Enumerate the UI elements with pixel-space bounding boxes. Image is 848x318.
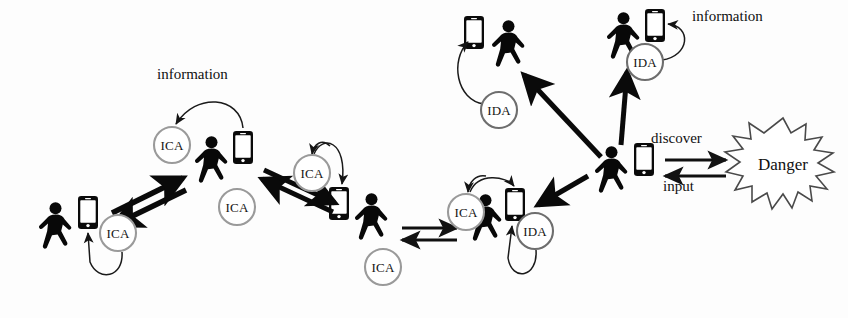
person-5 [464, 16, 524, 67]
agent-ida-2[interactable]: IDA [481, 92, 517, 128]
label-discover: discover [651, 130, 702, 147]
phone-person-2 [233, 131, 253, 164]
link-hub-person6 [621, 72, 627, 145]
link-hub-danger [665, 160, 726, 176]
agent-ida-3[interactable]: IDA [627, 44, 663, 80]
agent-label: ICA [301, 166, 324, 181]
phone-person-1 [78, 196, 98, 229]
phone-person-hub [634, 143, 654, 176]
agent-label: IDA [487, 103, 511, 118]
agent-label: ICA [107, 226, 130, 241]
agent-label: IDA [633, 55, 657, 70]
phone-person-6 [645, 9, 665, 42]
agent-ica-6[interactable]: ICA [448, 194, 484, 230]
curve-ida2-to-phone5 [458, 42, 484, 104]
agent-ida-1[interactable]: IDA [517, 213, 553, 249]
curve-ida3-to-phone6 [662, 24, 685, 60]
agent-label: ICA [161, 138, 184, 153]
phone-person-4 [505, 188, 525, 221]
agent-label: ICA [455, 205, 478, 220]
agent-ica-3[interactable]: ICA [219, 189, 255, 225]
label-information-right: information [692, 8, 763, 25]
agent-ica-1[interactable]: ICA [100, 215, 136, 251]
agent-label: ICA [226, 200, 249, 215]
diagram-canvas: ICA ICA ICA ICA ICA ICA IDA IDA [0, 0, 848, 318]
agent-ica-2[interactable]: ICA [154, 127, 190, 163]
person-2 [195, 131, 253, 183]
person-3 [329, 187, 387, 240]
agent-label: IDA [523, 224, 547, 239]
agent-ica-4[interactable]: ICA [294, 155, 330, 191]
link-hub-person4 [538, 176, 588, 205]
danger-label: Danger [758, 155, 808, 174]
danger-burst[interactable]: Danger [725, 118, 834, 209]
agent-label: ICA [372, 260, 395, 275]
agent-ica-5[interactable]: ICA [365, 249, 401, 285]
link-hub-person5 [524, 75, 601, 157]
label-information-left: information [157, 66, 228, 83]
curve-information-left [176, 102, 243, 128]
diagram-scene: ICA ICA ICA ICA ICA ICA IDA IDA [0, 0, 848, 318]
label-input: input [663, 178, 694, 195]
person-hub [595, 143, 654, 193]
link-person3-person4 [402, 228, 457, 240]
